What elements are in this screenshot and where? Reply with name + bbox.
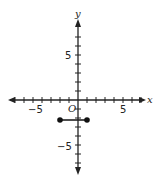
- x-axis-right-arrow-icon: [139, 97, 146, 103]
- y-axis-down-arrow-icon: [75, 167, 81, 175]
- x-axis-left-arrow-icon: [8, 97, 15, 103]
- y-axis-label: y: [74, 8, 81, 19]
- origin-label: O: [68, 103, 76, 114]
- y-axis-up-arrow-icon: [75, 19, 81, 27]
- y-tick-label-neg5: −5: [57, 141, 72, 152]
- x-tick-label-neg5: −5: [28, 104, 43, 115]
- y-tick-label-pos5: 5: [65, 50, 71, 61]
- endpoint-right: [84, 117, 90, 123]
- coordinate-plane: x y O −5 5 5 −5: [0, 0, 165, 186]
- x-tick-label-pos5: 5: [120, 104, 126, 115]
- endpoint-left: [57, 117, 63, 123]
- x-axis-label: x: [147, 94, 153, 105]
